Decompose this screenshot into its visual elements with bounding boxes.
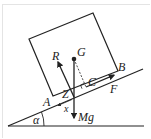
label-alpha: α (33, 113, 40, 127)
label-z: Z (62, 87, 69, 101)
perpendicular-gc-dashed (74, 59, 86, 87)
incline-diagram: R G B C F Z A x Mg α (0, 0, 151, 139)
alpha-arc (42, 112, 45, 126)
label-x: x (63, 103, 69, 114)
label-g: G (77, 45, 86, 59)
label-r: R (51, 49, 60, 63)
label-mg: Mg (77, 110, 94, 124)
label-f: F (109, 82, 118, 96)
label-c: C (88, 75, 97, 89)
label-b: B (118, 60, 126, 74)
label-a: A (42, 95, 51, 109)
incline-line (8, 69, 143, 126)
